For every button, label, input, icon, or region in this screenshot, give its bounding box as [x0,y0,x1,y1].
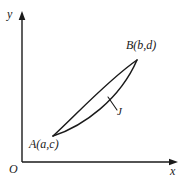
curve-j-upper-arc [53,60,137,136]
curve-j-label: J [117,106,122,117]
figure-container: y x O B(b,d) A(a,c) J [0,0,186,181]
point-a-label: A(a,c) [29,138,59,150]
y-axis-arrowhead [19,11,26,20]
diagram-canvas [0,0,186,181]
origin-label: O [9,163,18,175]
y-axis-label: y [7,8,12,20]
point-b-label: B(b,d) [126,39,156,51]
x-axis-label: x [170,165,175,177]
curve-j-leader-line [108,97,117,110]
